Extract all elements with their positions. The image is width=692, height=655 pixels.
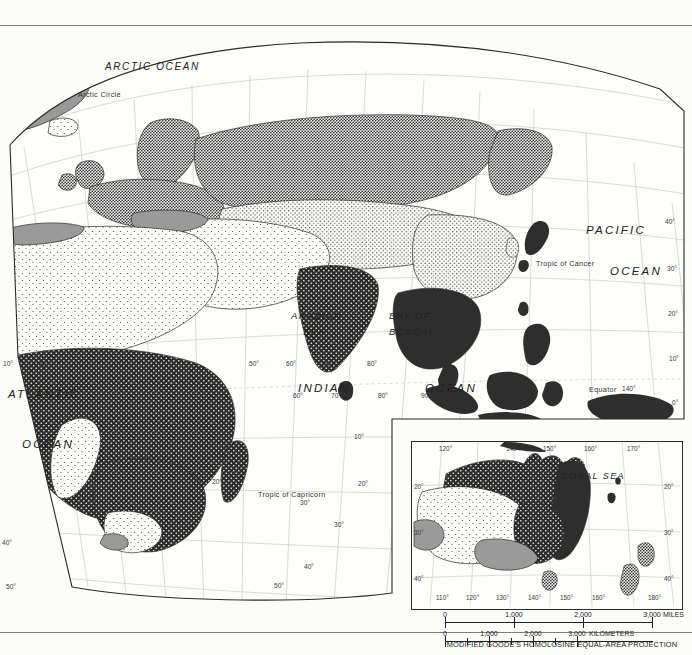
scale-tick-miles-0: [445, 617, 446, 628]
map-page: ARCTIC OCEAN Arctic Circle ATLANTIC OCEA…: [0, 0, 692, 655]
scale-label-miles-3000: 3,000: [643, 611, 661, 618]
inset-map-graphic: [412, 442, 680, 607]
landmass-iceland: [48, 118, 78, 136]
scale-tick-miles-3000: [652, 617, 653, 628]
scale-label-km-2000: 2,000: [524, 630, 542, 637]
scale-unit-kilometers: KILOMETERS: [589, 630, 634, 637]
projection-caption: MODIFIED GOODE'S HOMOLOSINE EQUAL-AREA P…: [437, 640, 687, 649]
inset-tasmania: [542, 571, 557, 590]
inset-vanuatu: [615, 477, 621, 484]
scale-label-km-1000: 1,000: [480, 630, 498, 637]
page-rule-top: [0, 25, 692, 26]
scale-tick-miles-1000: [514, 617, 515, 628]
scale-label-miles-1000: 1,000: [505, 611, 523, 618]
inset-new-zealand-north: [638, 543, 654, 566]
inset-map-australia: CORAL SEA 120° 140° 150° 160° 170° 110° …: [411, 441, 683, 610]
scale-label-km-0: 0: [443, 630, 447, 637]
scale-label-km-3000: 3,000: [568, 630, 586, 637]
scale-label-miles-2000: 2,000: [574, 611, 592, 618]
main-map: ARCTIC OCEAN Arctic Circle ATLANTIC OCEA…: [0, 27, 692, 627]
scale-bar-miles-line: [445, 622, 653, 623]
scale-bar-miles: 0 1,000 2,000 3,000 MILES: [437, 613, 687, 632]
scale-unit-miles: MILES: [663, 611, 684, 618]
scale-label-miles-0: 0: [443, 611, 447, 618]
landmass-korea: [506, 238, 519, 257]
scale-tick-miles-2000: [583, 617, 584, 628]
scale-bar-block: 0 1,000 2,000 3,000 MILES 0 1,000 2,000 …: [437, 613, 687, 651]
